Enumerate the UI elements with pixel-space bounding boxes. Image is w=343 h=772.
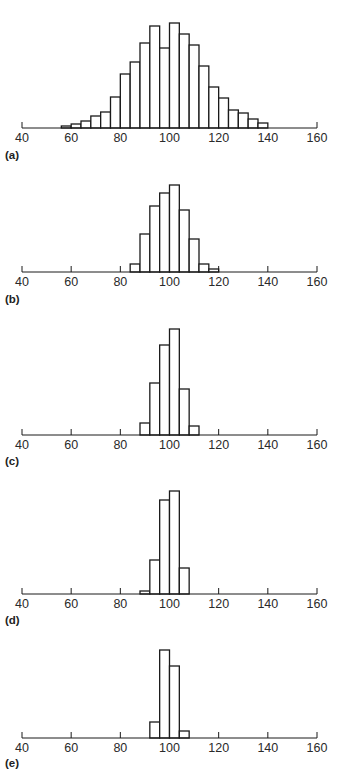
histogram-bar xyxy=(150,722,160,738)
histogram-plot xyxy=(0,0,343,772)
x-tick-label: 120 xyxy=(208,741,229,755)
x-tick-label: 100 xyxy=(159,741,180,755)
x-tick-label: 140 xyxy=(257,741,278,755)
x-tick-label: 80 xyxy=(113,741,127,755)
histogram-bar xyxy=(160,650,170,738)
x-tick-label: 40 xyxy=(15,741,29,755)
x-tick-label: 160 xyxy=(307,741,328,755)
x-tick-label: 60 xyxy=(64,741,78,755)
histogram-bar xyxy=(170,666,180,738)
histogram-bar xyxy=(179,731,189,738)
panel-label: (e) xyxy=(5,757,19,769)
